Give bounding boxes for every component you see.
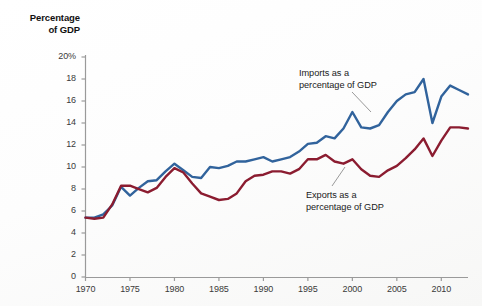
annotation-imports-line1: Imports as a [299,68,349,78]
annotation-imports-line2: percentage of GDP [299,80,377,90]
annotation-exports: Exports as a percentage of GDP [306,190,384,213]
y-tick-label: 16 [40,95,76,105]
y-tick-label: 2 [40,249,76,259]
series-line [86,79,469,218]
imports-leader-line [352,92,371,112]
y-tick-label: 20% [40,51,76,61]
x-tick-label: 2010 [421,284,461,294]
x-tick-label: 2005 [377,284,417,294]
x-tick-label: 1975 [110,284,150,294]
exports-leader-line [332,167,345,186]
series-paths [86,79,469,219]
annotation-exports-line2: percentage of GDP [306,202,384,212]
annotation-exports-line1: Exports as a [306,190,356,200]
y-tick-label: 12 [40,139,76,149]
y-tick-label: 18 [40,73,76,83]
x-tick-label: 2000 [332,284,372,294]
plot-canvas [0,0,482,306]
y-tick-label: 8 [40,183,76,193]
x-tick-label: 1970 [66,284,106,294]
x-tick-label: 1995 [288,284,328,294]
y-tick-label: 14 [40,117,76,127]
series-line [86,127,469,218]
y-tick-label: 6 [40,205,76,215]
chart-figure: Percentage of GDP 20%181614121086420 197… [0,0,482,306]
x-tick-label: 1990 [243,284,283,294]
x-tick-label: 1980 [154,284,194,294]
y-tick-label: 0 [40,271,76,281]
annotation-imports: Imports as a percentage of GDP [299,68,377,91]
y-tick-label: 4 [40,227,76,237]
y-tick-label: 10 [40,161,76,171]
x-tick-label: 1985 [199,284,239,294]
